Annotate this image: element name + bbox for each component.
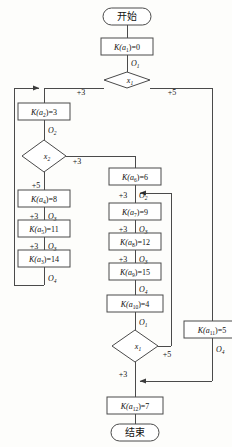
- process-box-p1: K(a1)=0: [101, 38, 153, 55]
- process-box-p2: K(a2)=3: [18, 103, 70, 120]
- process-box-p7: K(a7)=9: [109, 203, 161, 220]
- terminal-start-label: 开始: [117, 10, 137, 22]
- process-box-p4: K(a4)=8: [18, 190, 70, 207]
- operator-label-o1b: O1: [139, 318, 148, 328]
- edge-weight-w2: +5: [168, 88, 177, 97]
- process-box-p5: K(a5)=11: [18, 220, 70, 237]
- edge-weight-w6: +3: [30, 242, 39, 251]
- svg-text:K(a3)=14: K(a3)=14: [28, 255, 59, 265]
- process-box-p10: K(a10)=4: [107, 295, 163, 312]
- process-box-p3: K(a3)=14: [18, 250, 70, 267]
- edge-weight-w8: +3: [119, 225, 128, 234]
- edge-weight-w9: +3: [119, 255, 128, 264]
- edge-weight-w1: +3: [77, 88, 86, 97]
- operator-label-o3b: O3: [48, 242, 57, 252]
- edge-weight-w3: +3: [73, 157, 82, 166]
- operator-label-o3c: O3: [139, 225, 148, 235]
- terminal-end-label: 结束: [125, 426, 145, 438]
- edge-weight-w7: +3: [119, 191, 128, 200]
- operator-label-o3a: O3: [48, 212, 57, 222]
- edge-weight-w5: +3: [30, 212, 39, 221]
- edge-weight-w4: +5: [32, 181, 41, 190]
- flowchart-canvas: 开始 结束 x1 x2 x1 K(a1)=0 K(a2)=3 K(a4)=8 K…: [0, 0, 232, 447]
- svg-text:K(a5)=11: K(a5)=11: [28, 225, 59, 235]
- operator-label-o4c: O4: [216, 345, 225, 355]
- svg-text:K(a8)=12: K(a8)=12: [119, 238, 150, 248]
- process-box-p9: K(a9)=15: [109, 263, 161, 280]
- operator-label-o2b: O2: [139, 191, 148, 201]
- flowchart-svg: 开始 结束 x1 x2 x1 K(a1)=0 K(a2)=3 K(a4)=8 K…: [0, 0, 232, 447]
- edge-weight-w12: +3: [119, 370, 128, 379]
- svg-text:K(a9)=15: K(a9)=15: [119, 268, 150, 278]
- operator-label-o4a: O4: [48, 274, 57, 284]
- process-box-p6: K(a6)=6: [109, 168, 161, 185]
- process-box-p8: K(a8)=12: [109, 233, 161, 250]
- process-box-p12: K(a12)=7: [107, 397, 163, 414]
- operator-label-o1a: O1: [131, 59, 140, 69]
- operator-label-o2a: O2: [48, 126, 57, 136]
- operator-label-o4b: O4: [139, 285, 148, 295]
- process-box-p11: K(a11)=5: [184, 321, 232, 338]
- edge-weight-w11: +5: [163, 350, 172, 359]
- operator-label-o3d: O3: [139, 255, 148, 265]
